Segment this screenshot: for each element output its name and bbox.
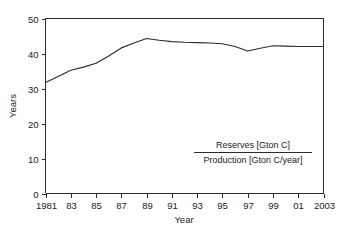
x-tick-label: 1981 (36, 200, 57, 211)
y-tick-label: 20 (28, 119, 39, 130)
x-axis-title: Year (174, 214, 193, 225)
x-tick-label: 01 (293, 200, 304, 211)
x-tick-label: 89 (142, 200, 153, 211)
x-tick-label: 97 (243, 200, 254, 211)
fraction-numerator-text: Reserves [Gton C] (216, 140, 290, 150)
x-tick-label: 85 (91, 200, 102, 211)
x-tick-label: 93 (192, 200, 203, 211)
y-tick-label: 10 (28, 154, 39, 165)
x-tick-label: 83 (66, 200, 77, 211)
x-tick-label: 91 (167, 200, 178, 211)
line-chart: 01020304050 1981838587899193959799012003… (0, 0, 346, 237)
x-tick-label: 2003 (314, 200, 335, 211)
y-tick-label: 0 (33, 189, 38, 200)
fraction-denominator-text: Production [Gton C/year] (203, 155, 302, 165)
y-tick-label: 40 (28, 49, 39, 60)
y-tick-label: 30 (28, 84, 39, 95)
y-axis-title: Years (7, 94, 18, 118)
x-tick-label: 95 (217, 200, 228, 211)
y-tick-label: 50 (28, 14, 39, 25)
chart-figure: 01020304050 1981838587899193959799012003… (0, 0, 346, 237)
x-tick-label: 87 (116, 200, 127, 211)
x-tick-label: 99 (268, 200, 279, 211)
